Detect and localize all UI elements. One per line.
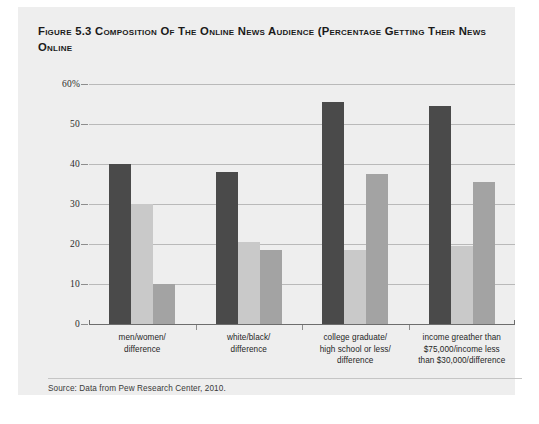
y-axis-tick-label: 60% xyxy=(62,79,80,89)
gridline xyxy=(89,84,515,85)
x-axis-group-label-line: college graduate/ xyxy=(294,332,417,344)
x-axis-group-label-line: men/women/ xyxy=(81,332,204,344)
y-axis-tick xyxy=(81,204,88,205)
y-axis-tick-label: 0 xyxy=(75,319,80,329)
y-axis-tick xyxy=(81,244,88,245)
x-axis-right-cap xyxy=(514,320,515,325)
x-axis-group-label-line: white/black/ xyxy=(188,332,311,344)
bar xyxy=(322,102,344,324)
y-axis-tick xyxy=(81,324,88,325)
bar xyxy=(429,106,451,324)
x-axis-group-label-line: difference xyxy=(188,344,311,356)
y-axis-tick xyxy=(81,124,88,125)
bar xyxy=(131,204,153,324)
y-axis-tick xyxy=(81,84,88,85)
gridline xyxy=(89,124,515,125)
bar xyxy=(109,164,131,324)
bar xyxy=(451,246,473,324)
bar xyxy=(153,284,175,324)
gridline xyxy=(89,164,515,165)
x-axis-group-label-line: income greather than xyxy=(401,332,524,344)
figure-title: Figure 5.3 Composition of the Online New… xyxy=(38,23,500,55)
chart-plot-area: 0102030405060% xyxy=(89,84,515,325)
bar xyxy=(260,250,282,324)
x-axis-line xyxy=(89,324,515,325)
y-axis-tick-label: 20 xyxy=(70,239,80,249)
x-axis-group-label-line: high school or less/ xyxy=(294,344,417,356)
y-axis-tick-label: 50 xyxy=(70,119,80,129)
x-axis-group-label: college graduate/high school or less/dif… xyxy=(294,332,417,367)
bar xyxy=(366,174,388,324)
bar xyxy=(344,250,366,324)
figure-panel: Figure 5.3 Composition of the Online New… xyxy=(18,7,515,395)
y-axis-tick-label: 40 xyxy=(70,159,80,169)
x-axis-group-label: white/black/difference xyxy=(188,332,311,355)
x-axis-group-label-line: difference xyxy=(294,355,417,367)
x-axis-group-label-line: difference xyxy=(81,344,204,356)
bar xyxy=(238,242,260,324)
x-axis-group-label-line: $75,000/income less xyxy=(401,344,524,356)
bar xyxy=(216,172,238,324)
y-axis-tick-label: 10 xyxy=(70,279,80,289)
bar xyxy=(473,182,495,324)
x-axis-group-label: income greather than$75,000/income lesst… xyxy=(401,332,524,367)
y-axis-tick-label: 30 xyxy=(70,199,80,209)
x-axis-group-label-line: than $30,000/difference xyxy=(401,355,524,367)
y-axis-tick xyxy=(81,164,88,165)
x-axis-left-cap xyxy=(89,320,90,325)
figure-title-line-1: Figure 5.3 Composition of the Online New… xyxy=(38,25,425,37)
source-note: Source: Data from Pew Research Center, 2… xyxy=(48,384,226,393)
x-axis-group-label: men/women/difference xyxy=(81,332,204,355)
y-axis-tick xyxy=(81,284,88,285)
source-divider xyxy=(48,378,522,379)
